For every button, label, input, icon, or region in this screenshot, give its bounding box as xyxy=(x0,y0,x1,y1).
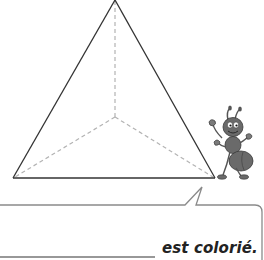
edge-right xyxy=(115,0,215,178)
edge-left xyxy=(13,0,115,178)
bubble-caption: est colorié. xyxy=(162,239,258,257)
pyramid xyxy=(13,0,215,178)
worksheet-figure xyxy=(0,0,264,260)
hidden-edge-left xyxy=(15,117,115,177)
ant-mascot-icon xyxy=(209,106,253,180)
